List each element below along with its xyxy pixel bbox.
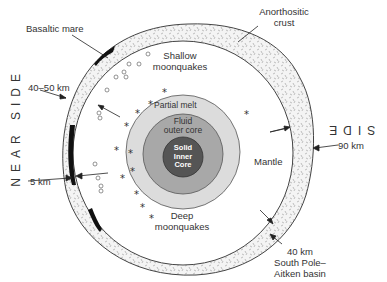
label-anorthositic-line2: crust	[256, 17, 312, 28]
label-mantle: Mantle	[254, 156, 283, 167]
label-deep-line1: Deep	[150, 210, 214, 221]
label-shallow-line1: Shallow	[150, 50, 210, 61]
svg-text:*: *	[140, 202, 145, 213]
label-deep-line2: moonquakes	[150, 221, 214, 232]
svg-text:*: *	[244, 109, 249, 120]
label-deep-moonquakes: Deep moonquakes	[150, 210, 214, 232]
label-partial-melt: Partial melt	[154, 100, 197, 111]
svg-text:*: *	[114, 145, 119, 156]
svg-text:*: *	[130, 166, 135, 177]
label-anorthositic-line1: Anorthositic	[256, 6, 312, 17]
svg-text:*: *	[128, 148, 133, 159]
label-spa-line1: South Pole–	[264, 257, 336, 268]
label-40-50-km: 40–50 km	[28, 82, 70, 93]
label-fluid-outer-core: Fluid outer core	[156, 117, 210, 135]
svg-text:*: *	[148, 99, 153, 110]
label-shallow-line2: moonquakes	[150, 61, 210, 72]
label-5-km: 5 km	[30, 176, 51, 187]
far-side-label: FAR SIDE	[366, 78, 383, 181]
far-side-text: FAR SIDE	[323, 121, 387, 138]
near-side-label: NEAR SIDE	[8, 68, 25, 187]
label-south-pole-aitken: 40 km South Pole– Aitken basin	[264, 246, 336, 279]
svg-text:*: *	[120, 173, 125, 184]
svg-text:*: *	[135, 108, 140, 119]
svg-text:*: *	[162, 87, 167, 98]
svg-text:*: *	[124, 121, 129, 132]
label-40-km: 40 km	[264, 246, 336, 257]
svg-text:*: *	[134, 189, 139, 200]
label-solid-inner-core: Solid Inner Core	[165, 144, 201, 170]
label-fluid-line2: outer core	[156, 126, 210, 135]
label-90-km: 90 km	[338, 140, 364, 151]
label-inner-line3: Core	[165, 161, 201, 170]
label-basaltic-mare: Basaltic mare	[26, 23, 84, 34]
moon-cross-section: *** *** *** ***	[0, 0, 387, 282]
near-side-text: NEAR SIDE	[8, 68, 25, 187]
label-shallow-moonquakes: Shallow moonquakes	[150, 50, 210, 72]
label-anorthositic-crust: Anorthositic crust	[256, 6, 312, 28]
label-spa-line2: Aitken basin	[264, 268, 336, 279]
